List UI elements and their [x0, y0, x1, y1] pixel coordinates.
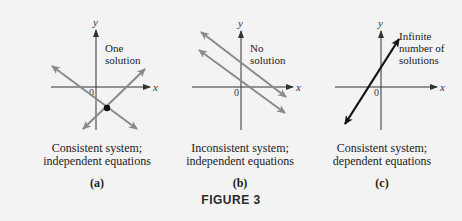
line-positive-slope	[83, 69, 145, 129]
caption-line-2: independent equations	[165, 155, 315, 168]
panel-b-sublabel: (b)	[220, 176, 260, 191]
annotation-line-1: One	[105, 42, 123, 54]
coincident-line	[345, 39, 399, 124]
annotation-line-2: number of	[399, 42, 445, 54]
annotation-line-2: solution	[105, 54, 141, 66]
origin-label: 0	[234, 87, 239, 98]
panel-b-caption: Inconsistent system; independent equatio…	[165, 142, 315, 168]
figure-title: FIGURE 3	[181, 193, 281, 207]
y-axis-label: y	[237, 17, 243, 29]
line-negative-slope	[52, 66, 137, 129]
panel-c-caption: Consistent system; dependent equations	[307, 142, 457, 168]
intersection-point	[104, 105, 110, 111]
x-axis-label: x	[152, 81, 158, 93]
panel-b-graph: x y 0 No solution	[192, 17, 301, 130]
caption-line-2: independent equations	[22, 155, 172, 168]
panel-c-sublabel: (c)	[362, 176, 402, 191]
annotation-line-1: No	[250, 42, 264, 54]
x-axis-label: x	[439, 81, 445, 93]
annotation-line-2: solution	[250, 54, 286, 66]
annotation-line-1: Infinite	[399, 30, 431, 42]
y-axis-label: y	[377, 17, 383, 29]
caption-line-2: dependent equations	[307, 155, 457, 168]
panel-a-graph: x y 0 One solution	[51, 16, 158, 130]
panel-c-graph: x y 0 Infinite number of solutions	[335, 17, 445, 130]
panel-a-caption: Consistent system; independent equations	[22, 142, 172, 168]
origin-label: 0	[374, 87, 379, 98]
x-axis-label: x	[295, 81, 301, 93]
y-axis-label: y	[92, 16, 98, 28]
panel-a-sublabel: (a)	[77, 176, 117, 191]
annotation-line-3: solutions	[399, 54, 439, 66]
